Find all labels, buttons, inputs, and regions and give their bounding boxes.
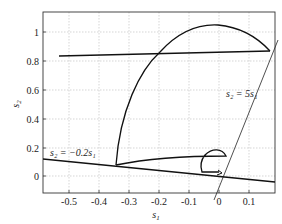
annotation-neg02s1: s₂ = −0.2s₁ bbox=[50, 147, 96, 158]
svg-text:-0.4: -0.4 bbox=[91, 196, 107, 207]
x-axis-label: s1 bbox=[152, 209, 159, 222]
y-axis-label: s2 bbox=[10, 100, 23, 108]
annotation-5s1: s₂ = 5s₁ bbox=[226, 88, 257, 99]
y-tick-labels: 0 0.2 0.4 0.6 0.8 1 bbox=[27, 27, 40, 182]
svg-text:0.8: 0.8 bbox=[27, 56, 40, 67]
svg-text:0.2: 0.2 bbox=[27, 143, 40, 154]
phase-plot: -0.5 -0.4 -0.3 -0.2 -0.1 0 0.1 0 0.2 0.4… bbox=[0, 0, 282, 224]
svg-text:-0.5: -0.5 bbox=[61, 196, 77, 207]
x-tick-labels: -0.5 -0.4 -0.3 -0.2 -0.1 0 0.1 bbox=[61, 196, 255, 207]
trajectory-lower-spiral bbox=[116, 150, 226, 172]
svg-text:0: 0 bbox=[217, 196, 222, 207]
svg-text:-0.1: -0.1 bbox=[181, 196, 197, 207]
svg-text:1: 1 bbox=[34, 27, 39, 38]
svg-text:0.6: 0.6 bbox=[27, 85, 40, 96]
svg-text:0.4: 0.4 bbox=[27, 114, 40, 125]
svg-text:0: 0 bbox=[34, 171, 39, 182]
grid bbox=[43, 12, 275, 193]
svg-text:-0.3: -0.3 bbox=[121, 196, 137, 207]
trajectory-upper-line bbox=[59, 51, 270, 56]
svg-text:-0.2: -0.2 bbox=[151, 196, 167, 207]
svg-text:0.1: 0.1 bbox=[243, 196, 256, 207]
